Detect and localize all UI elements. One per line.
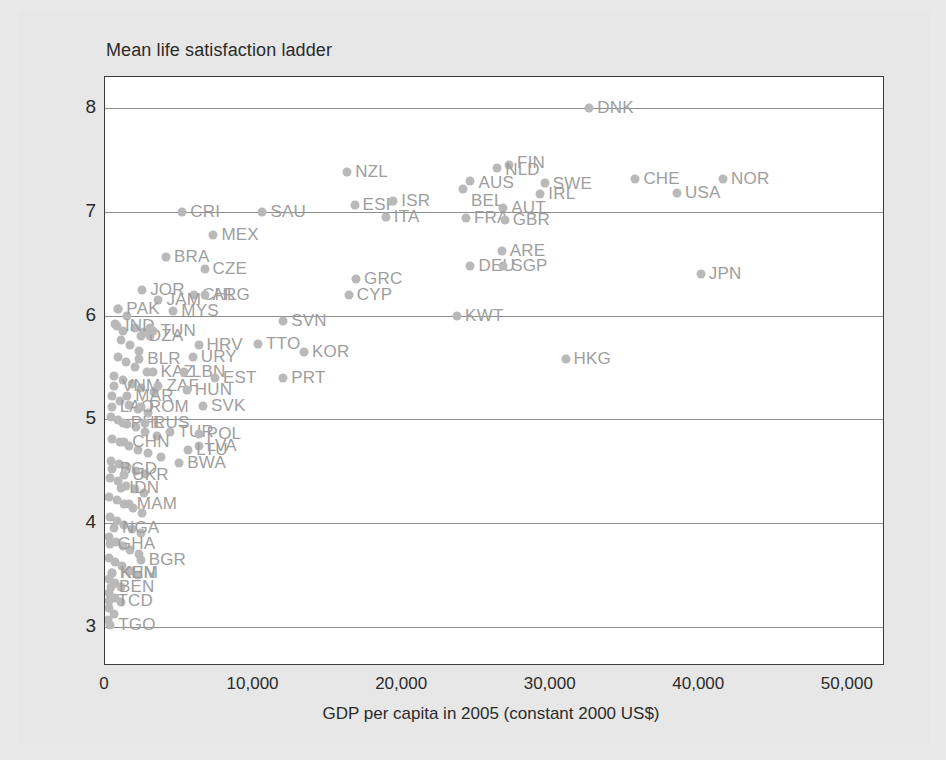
data-point-ITA[interactable] [381, 212, 390, 221]
point-label-MEX: MEX [221, 225, 258, 245]
data-point[interactable] [157, 452, 166, 461]
data-point-PRT[interactable] [279, 373, 288, 382]
point-label-IRL: IRL [548, 184, 575, 204]
x-tick-30000: 30,000 [524, 674, 576, 694]
point-label-NOR: NOR [731, 169, 769, 189]
data-point[interactable] [121, 358, 130, 367]
data-point-CRI[interactable] [178, 207, 187, 216]
data-point-NOR[interactable] [719, 174, 728, 183]
data-point-GRC[interactable] [352, 275, 361, 284]
data-point-ARE[interactable] [497, 247, 506, 256]
point-label-AUS: AUS [478, 173, 514, 193]
data-point-MAM[interactable] [124, 500, 133, 509]
point-label-ITA: ITA [394, 207, 420, 227]
point-label-TTO: TTO [266, 334, 300, 354]
data-point-GBR[interactable] [500, 216, 509, 225]
x-tick-10000: 10,000 [227, 674, 279, 694]
data-point-ESP[interactable] [350, 200, 359, 209]
data-point-RUS[interactable] [141, 419, 150, 428]
data-point-CHE[interactable] [631, 174, 640, 183]
point-label-CHE: CHE [643, 169, 680, 189]
point-label-SAU: SAU [270, 202, 306, 222]
y-tick-7: 7 [56, 200, 96, 222]
gridline-y-4 [105, 523, 883, 524]
data-point-CHN[interactable] [120, 438, 129, 447]
data-point-TGO[interactable] [106, 620, 115, 629]
data-point-NLD[interactable] [493, 164, 502, 173]
point-label-DEU: DEU [478, 256, 515, 276]
point-label-SGP: SGP [511, 256, 548, 276]
data-point-ARG[interactable] [200, 290, 209, 299]
data-point-PHL[interactable] [118, 419, 127, 428]
data-point-BGD[interactable] [107, 464, 116, 473]
data-point-LAO[interactable] [107, 402, 116, 411]
point-label-GBR: GBR [513, 210, 550, 230]
data-point[interactable] [130, 363, 139, 372]
data-point-JOR[interactable] [138, 285, 147, 294]
data-point-DEU[interactable] [466, 261, 475, 270]
data-point-USA[interactable] [673, 189, 682, 198]
data-point-POL[interactable] [194, 429, 203, 438]
data-point-ISR[interactable] [389, 197, 398, 206]
chart-title: Mean life satisfaction ladder [106, 40, 332, 61]
y-tick-5: 5 [56, 407, 96, 429]
data-point-UKR[interactable] [120, 471, 129, 480]
x-axis-title: GDP per capita in 2005 (constant 2000 US… [18, 704, 946, 724]
data-point-BWA[interactable] [175, 458, 184, 467]
y-tick-6: 6 [56, 304, 96, 326]
data-point[interactable] [109, 371, 118, 380]
data-point-IDN[interactable] [117, 483, 126, 492]
data-point-TUN[interactable] [148, 327, 157, 336]
data-point-VNM[interactable] [109, 382, 118, 391]
data-point-HUN[interactable] [182, 386, 191, 395]
data-point-SAU[interactable] [258, 207, 267, 216]
data-point-AUS[interactable] [466, 176, 475, 185]
data-point-FRA[interactable] [462, 214, 471, 223]
point-label-KOR: KOR [312, 342, 349, 362]
data-point-KHM[interactable] [107, 568, 116, 577]
data-point-NGA[interactable] [109, 524, 118, 533]
point-label-PRT: PRT [291, 368, 325, 388]
point-label-USA: USA [685, 183, 721, 203]
y-tick-8: 8 [56, 96, 96, 118]
data-point-KOR[interactable] [300, 347, 309, 356]
data-point-CYP[interactable] [344, 290, 353, 299]
data-point-PAK[interactable] [114, 305, 123, 314]
data-point-JPN[interactable] [696, 270, 705, 279]
data-point-URY[interactable] [188, 352, 197, 361]
point-label-CZE: CZE [213, 259, 248, 279]
data-point-CZE[interactable] [200, 264, 209, 273]
data-point[interactable] [126, 340, 135, 349]
y-axis-tick-labels: 345678 [52, 76, 96, 665]
data-point-BRA[interactable] [161, 253, 170, 262]
point-label-TGO: TGO [118, 615, 155, 635]
data-point-DZA[interactable] [136, 332, 145, 341]
data-point-TTO[interactable] [254, 339, 263, 348]
data-point-BEL[interactable] [459, 184, 468, 193]
data-point[interactable] [117, 336, 126, 345]
data-point-SVN[interactable] [279, 316, 288, 325]
data-point-SGP[interactable] [499, 261, 508, 270]
data-point-DNK[interactable] [585, 104, 594, 113]
point-label-MAR: MAR [135, 386, 173, 406]
data-point-MYS[interactable] [169, 307, 178, 316]
data-point-TCD[interactable] [105, 596, 114, 605]
data-point-KWT[interactable] [453, 311, 462, 320]
data-point-NZL[interactable] [343, 168, 352, 177]
data-point-MEX[interactable] [209, 230, 218, 239]
data-point-SVK[interactable] [199, 401, 208, 410]
data-point-IND[interactable] [112, 321, 121, 330]
data-point-HKG[interactable] [561, 355, 570, 364]
data-point-BLR[interactable] [135, 355, 144, 364]
data-point-GHA[interactable] [105, 539, 114, 548]
data-point-MAR[interactable] [123, 392, 132, 401]
data-point-BEN[interactable] [106, 583, 115, 592]
plot-area[interactable]: DNKFINNLDAUSBELSWECHENORIRLUSANZLESPISRC… [105, 77, 883, 664]
data-point-LBN[interactable] [179, 367, 188, 376]
point-label-DNK: DNK [597, 98, 634, 118]
point-label-CYP: CYP [357, 285, 393, 305]
plot-frame[interactable]: DNKFINNLDAUSBELSWECHENORIRLUSANZLESPISRC… [104, 76, 884, 665]
data-point-KAZ[interactable] [148, 367, 157, 376]
point-label-SVN: SVN [291, 311, 327, 331]
gridline-y-5 [105, 419, 883, 420]
